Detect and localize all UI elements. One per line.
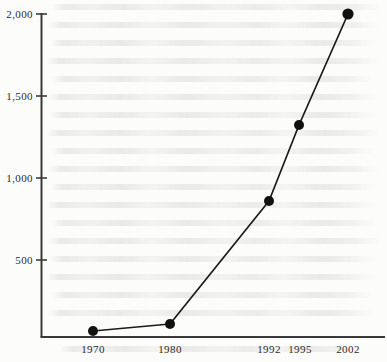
data-point-1992[interactable]	[264, 196, 274, 206]
x-tick-label-2002: 2002	[336, 343, 360, 355]
chart-page: 2,000 1,500 1,000 500 1970 1980 1992 199…	[0, 0, 387, 362]
line-chart	[0, 0, 387, 362]
y-tick-label-1500: 1,500	[0, 90, 33, 102]
data-point-1970[interactable]	[88, 326, 98, 336]
y-tick-label-500: 500	[0, 254, 33, 266]
data-series-line	[93, 14, 348, 331]
data-point-2002[interactable]	[342, 8, 353, 19]
x-tick-label-1970: 1970	[81, 343, 105, 355]
data-point-1995[interactable]	[294, 120, 304, 130]
x-tick-label-1992: 1992	[257, 343, 281, 355]
x-tick-label-1995: 1995	[288, 343, 312, 355]
y-tick-label-2000: 2,000	[0, 8, 33, 20]
data-point-1980[interactable]	[165, 319, 175, 329]
y-tick-label-1000: 1,000	[0, 172, 33, 184]
x-tick-label-1980: 1980	[158, 343, 182, 355]
